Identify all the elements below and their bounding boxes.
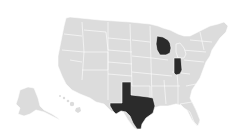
state-hawaii[interactable] [59,95,81,113]
us-map [0,0,234,139]
state-indiana[interactable] [174,58,182,75]
state-alaska[interactable] [16,87,60,120]
